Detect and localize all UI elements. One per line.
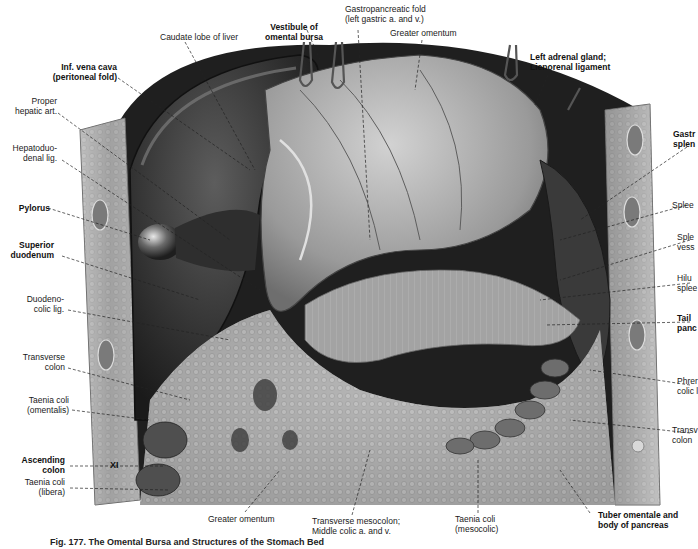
label-transverse-mesocolon: Transverse mesocolon;Middle colic a. and…	[312, 516, 400, 536]
label-splenic-vessels: Splevess	[677, 232, 694, 252]
label-spleen: Splee	[672, 200, 694, 210]
label-inf-vena-cava: Inf. vena cava(peritoneal fold)	[53, 62, 117, 82]
label-gastrosplenic-lig: Gastrsplen	[673, 129, 695, 149]
label-proper-hepatic-art: Properhepatic art.	[15, 96, 57, 116]
label-hepatoduodenal-lig: Hepatoduo-denal lig.	[13, 143, 57, 163]
label-gastropancreatic-fold: Gastropancreatic fold(left gastric a. an…	[345, 4, 426, 24]
label-taenia-coli-mesocolic: Taenia coli(mesocolic)	[455, 514, 498, 534]
label-taenia-coli-libera: Taenia coli(libera)	[25, 477, 65, 497]
label-tail-pancreas: Tailpanc	[677, 313, 697, 333]
label-phrenicocolic-lig: Phrercolic l	[677, 376, 698, 396]
label-taenia-coli-omentalis: Taenia coli(omentalis)	[27, 395, 69, 415]
label-transverse-colon-right: Transvcolon	[672, 425, 698, 445]
label-left-adrenal-gland: Left adrenal gland;Lienorenal ligament	[530, 52, 610, 72]
label-greater-omentum-top: Greater omentum	[390, 28, 457, 38]
label-vestibule-omental-bursa: Vestibule ofomental bursa	[265, 22, 323, 42]
label-hilum-spleen: Hilusplee	[677, 273, 697, 293]
label-duodenocolic-lig: Duodeno-colic lig.	[27, 294, 64, 314]
label-tuber-omentale: Tuber omentale andbody of pancreas	[598, 510, 678, 530]
label-superior-duodenum: Superiorduodenum	[11, 240, 54, 260]
label-greater-omentum-bottom: Greater omentum	[208, 514, 275, 524]
label-transverse-colon-left: Transversecolon	[23, 352, 65, 372]
label-ascending-colon: Ascendingcolon	[22, 455, 65, 475]
rib-marker-xi: XI	[110, 460, 119, 470]
label-pylorus: Pylorus	[19, 203, 50, 213]
label-caudate-lobe: Caudate lobe of liver	[160, 32, 238, 42]
figure-caption: Fig. 177. The Omental Bursa and Structur…	[50, 537, 324, 547]
